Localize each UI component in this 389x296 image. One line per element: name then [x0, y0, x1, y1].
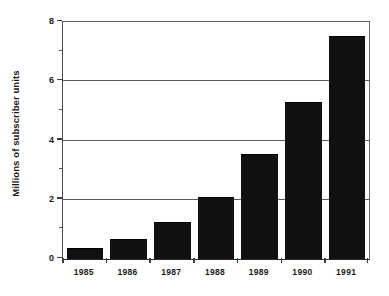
x-axis-tick-label: 1990 — [292, 267, 312, 277]
bar-slot — [238, 22, 282, 259]
x-axis-tick — [106, 258, 108, 263]
x-axis-tick — [62, 258, 64, 263]
y-axis-tick-label: 4 — [49, 135, 54, 145]
x-axis-tick — [281, 258, 283, 263]
bar-series — [63, 22, 369, 259]
x-axis-tick-label: 1991 — [336, 267, 356, 277]
bar — [198, 197, 235, 259]
x-axis-tick-label: 1988 — [205, 267, 225, 277]
y-axis: 02468 — [0, 21, 62, 258]
x-axis-tick-label: 1986 — [118, 267, 138, 277]
bar-chart-figure: Millions of subscriber units 02468 19851… — [0, 0, 389, 296]
x-axis-tick-label: 1989 — [249, 267, 269, 277]
x-axis-tick-label: 1985 — [74, 267, 94, 277]
y-axis-tick-label: 8 — [49, 16, 54, 26]
x-axis: 1985198619871988198919901991 — [62, 258, 368, 296]
bar — [329, 36, 366, 259]
bar-slot — [150, 22, 194, 259]
x-axis-tick — [367, 258, 369, 263]
x-axis-tick — [324, 258, 326, 263]
x-axis-tick-label: 1987 — [161, 267, 181, 277]
bar-slot — [282, 22, 326, 259]
y-axis-tick-label: 2 — [49, 194, 54, 204]
bar — [110, 239, 147, 259]
y-axis-tick-label: 6 — [49, 75, 54, 85]
x-axis-tick — [149, 258, 151, 263]
bar — [241, 154, 278, 259]
x-axis-tick — [193, 258, 195, 263]
bar-slot — [325, 22, 369, 259]
bar-slot — [63, 22, 107, 259]
y-axis-tick-label: 0 — [49, 253, 54, 263]
bar-slot — [107, 22, 151, 259]
plot-area — [62, 21, 370, 260]
bar — [285, 102, 322, 259]
bar — [154, 222, 191, 259]
bar-slot — [194, 22, 238, 259]
x-axis-tick — [237, 258, 239, 263]
